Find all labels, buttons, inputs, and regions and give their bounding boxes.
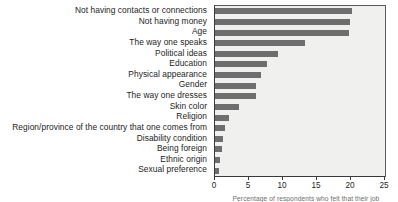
bar-row [215,80,385,91]
category-label: Political ideas [0,48,211,59]
bar [215,51,278,57]
x-axis-tick [282,176,283,180]
bar-row [215,6,385,17]
x-axis-tick-label: 0 [212,181,217,190]
category-label: Gender [0,79,211,90]
category-label: Not having contacts or connections [0,5,211,16]
bar [215,146,222,152]
bar-row [215,144,385,155]
bar [215,125,225,131]
x-axis-tick [384,176,385,180]
x-axis-tick-label: 20 [345,181,354,190]
bar-row [215,59,385,70]
x-axis: 0510152025 [214,176,385,177]
chart-figure: Not having contacts or connections Not h… [0,0,398,202]
bar-row [215,49,385,60]
plot-area [214,5,386,177]
bar-row [215,91,385,102]
bar [215,115,229,121]
category-label: Skin color [0,101,211,112]
bar [215,136,223,142]
category-label: The way one speaks [0,37,211,48]
bar [215,30,349,36]
bar [215,104,239,110]
bar [215,72,261,78]
bar [215,157,220,163]
x-axis-tick [350,176,351,180]
bar-row [215,38,385,49]
bar-row [215,134,385,145]
bar [215,83,256,89]
bar-row [215,70,385,81]
bar [215,19,350,25]
bar [215,93,256,99]
x-axis-tick-label: 25 [379,181,388,190]
bar [215,61,267,67]
category-label: Being foreign [0,143,211,154]
category-label: Region/province of the country that one … [0,122,211,133]
bar-row [215,27,385,38]
category-label: The way one dresses [0,90,211,101]
x-axis-tick-label: 10 [277,181,286,190]
x-axis-tick [316,176,317,180]
bar-row [215,102,385,113]
x-axis-tick [214,176,215,180]
category-label: Physical appearance [0,69,211,80]
bar-row [215,165,385,176]
bar [215,168,219,174]
category-label: Religion [0,111,211,122]
bar-row [215,155,385,166]
bar-row [215,112,385,123]
x-axis-tick-label: 5 [246,181,251,190]
category-label: Age [0,26,211,37]
bar-row [215,123,385,134]
bar-row [215,17,385,28]
category-label: Not having money [0,16,211,27]
x-axis-title: Percentage of respondents who felt that … [214,195,398,202]
x-axis-tick-label: 15 [311,181,320,190]
category-label: Ethnic origin [0,154,211,165]
bar [215,8,352,14]
category-label: Education [0,58,211,69]
category-axis-labels: Not having contacts or connections Not h… [0,5,211,175]
bar-series [215,6,385,176]
category-label: Sexual preference [0,164,211,175]
x-axis-tick [248,176,249,180]
category-label: Disability condition [0,133,211,144]
bar [215,40,305,46]
